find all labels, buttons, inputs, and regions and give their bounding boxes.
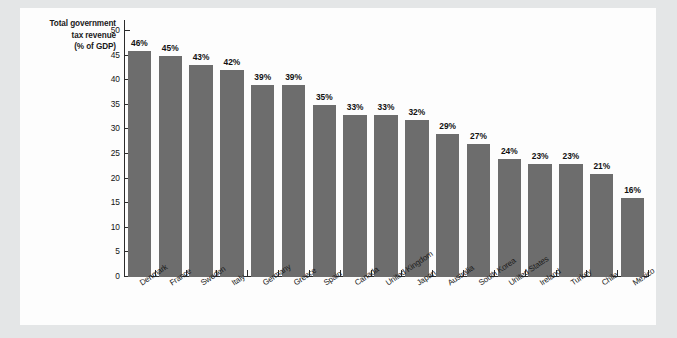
y-axis-tick-label: 20 — [98, 174, 120, 183]
y-axis-tick-label-wrap: 30 — [98, 124, 120, 133]
bar-value-label: 39% — [276, 73, 311, 82]
bar — [621, 198, 644, 277]
y-axis-tick-label-wrap: 0 — [98, 272, 120, 281]
y-axis-tick — [125, 30, 130, 31]
y-axis-tick-label-wrap: 5 — [98, 247, 120, 256]
bar-value-label: 27% — [461, 132, 496, 141]
y-axis-tick-label-wrap: 25 — [98, 149, 120, 158]
plot-area: 05101520253035404550 46%45%43%42%39%39%3… — [124, 20, 654, 278]
bar — [251, 85, 274, 277]
bar — [282, 85, 305, 277]
bar-value-label: 42% — [214, 58, 249, 67]
bar — [436, 134, 459, 277]
y-axis-tick-label-wrap: 45 — [98, 51, 120, 60]
bar — [189, 65, 212, 277]
figure-panel: Total government tax revenue (% of GDP) … — [20, 8, 656, 325]
y-axis-tick-label-wrap: 35 — [98, 100, 120, 109]
bar — [343, 115, 366, 277]
bar — [467, 144, 490, 277]
x-axis-tick — [124, 270, 125, 277]
bar-value-label: 32% — [399, 108, 434, 117]
bar-value-label: 16% — [615, 186, 650, 195]
y-axis-tick-label: 15 — [98, 198, 120, 207]
bar-value-label: 45% — [153, 44, 188, 53]
x-axis-tick — [247, 270, 248, 277]
y-axis-tick-label-wrap: 40 — [98, 75, 120, 84]
y-axis-tick-label: 50 — [98, 26, 120, 35]
chart-figure: Total government tax revenue (% of GDP) … — [0, 0, 677, 338]
y-axis-tick-label: 40 — [98, 75, 120, 84]
bar — [374, 115, 397, 277]
y-axis-tick-label-wrap: 50 — [98, 26, 120, 35]
y-axis-line — [124, 20, 125, 277]
bar-value-label: 29% — [430, 122, 465, 131]
bar — [559, 164, 582, 277]
bar — [220, 70, 243, 277]
y-axis-tick-label: 5 — [98, 247, 120, 256]
bar-value-label: 23% — [553, 152, 588, 161]
y-axis-tick-label: 25 — [98, 149, 120, 158]
bar — [590, 174, 613, 277]
y-axis-tick-label: 35 — [98, 100, 120, 109]
y-axis-tick-label: 30 — [98, 124, 120, 133]
y-axis-tick-label-wrap: 15 — [98, 198, 120, 207]
y-axis-tick-label-wrap: 10 — [98, 223, 120, 232]
bar — [128, 51, 151, 277]
bar-value-label: 21% — [584, 162, 619, 171]
y-axis-tick-label: 10 — [98, 223, 120, 232]
bar-value-label: 35% — [307, 93, 342, 102]
bar — [159, 56, 182, 277]
y-axis-tick-label: 0 — [98, 272, 120, 281]
bar — [313, 105, 336, 277]
y-axis-title: Total government tax revenue (% of GDP) — [38, 18, 116, 53]
y-axis-tick-label: 45 — [98, 51, 120, 60]
y-axis-tick-label-wrap: 20 — [98, 174, 120, 183]
